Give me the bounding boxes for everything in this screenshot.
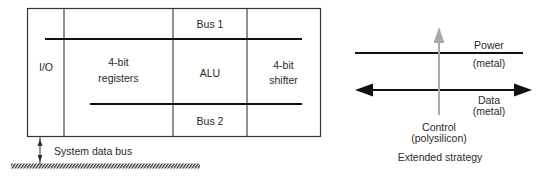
- shifter-label-line2: shifter: [247, 74, 320, 86]
- bus-arrow-up-icon: [38, 139, 43, 146]
- system-bus-hatch: [11, 164, 200, 169]
- control-material-label: (polysilicon): [404, 132, 474, 144]
- alu-label: ALU: [173, 67, 247, 79]
- system-bus-label: System data bus: [54, 145, 132, 157]
- registers-label-line2: registers: [64, 72, 173, 84]
- data-material-label: (metal): [464, 105, 514, 117]
- bus2-label: Bus 2: [173, 115, 247, 127]
- power-material-label: (metal): [464, 57, 514, 69]
- control-arrow-up-icon: [434, 27, 445, 43]
- bus-arrow-down-icon: [38, 155, 43, 162]
- shifter-label: 4-bit shifter: [247, 59, 320, 86]
- shifter-label-line1: 4-bit: [247, 59, 320, 71]
- data-arrow-right-icon: [514, 84, 532, 97]
- bus1-label: Bus 1: [173, 18, 247, 30]
- power-label: Power: [464, 39, 514, 51]
- registers-label-line1: 4-bit: [64, 56, 173, 68]
- io-label: I/O: [28, 61, 64, 73]
- extended-strategy-caption: Extended strategy: [395, 151, 485, 163]
- registers-label: 4-bit registers: [64, 56, 173, 84]
- data-arrow-left-icon: [355, 84, 373, 97]
